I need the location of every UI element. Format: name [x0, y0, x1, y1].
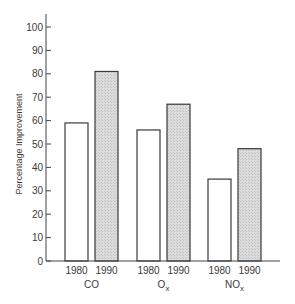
x-tick-label: 1980: [208, 265, 231, 276]
x-tick-label: 1990: [95, 265, 118, 276]
bars: [65, 71, 261, 261]
bar-nox-1990: [238, 149, 261, 261]
category-label: NOx: [225, 279, 244, 293]
bar-nox-1980: [208, 179, 231, 261]
x-axis: 19801990CO19801990Ox19801990NOx: [46, 261, 280, 293]
x-tick-label: 1980: [137, 265, 160, 276]
y-axis: 0102030405060708090100: [26, 14, 51, 267]
bar-ox-1990: [167, 104, 190, 261]
y-tick-label: 0: [37, 256, 43, 267]
x-tick-label: 1990: [238, 265, 261, 276]
y-tick-label: 60: [32, 115, 44, 126]
y-tick-label: 40: [32, 162, 44, 173]
y-tick-label: 10: [32, 232, 44, 243]
bar-co-1980: [65, 123, 88, 261]
y-tick-label: 80: [32, 68, 44, 79]
bar-chart: 0102030405060708090100 19801990CO1980199…: [0, 0, 295, 304]
y-tick-label: 50: [32, 139, 44, 150]
y-tick-label: 90: [32, 45, 44, 56]
y-tick-label: 100: [26, 22, 43, 33]
category-label: Ox: [158, 279, 170, 293]
y-tick-label: 70: [32, 92, 44, 103]
category-label: CO: [84, 279, 99, 290]
y-axis-label: Percentage Improvement: [14, 93, 24, 195]
bar-co-1990: [95, 71, 118, 261]
y-tick-label: 30: [32, 185, 44, 196]
x-tick-label: 1980: [65, 265, 88, 276]
bar-ox-1980: [137, 130, 160, 261]
x-tick-label: 1990: [167, 265, 190, 276]
y-tick-label: 20: [32, 209, 44, 220]
